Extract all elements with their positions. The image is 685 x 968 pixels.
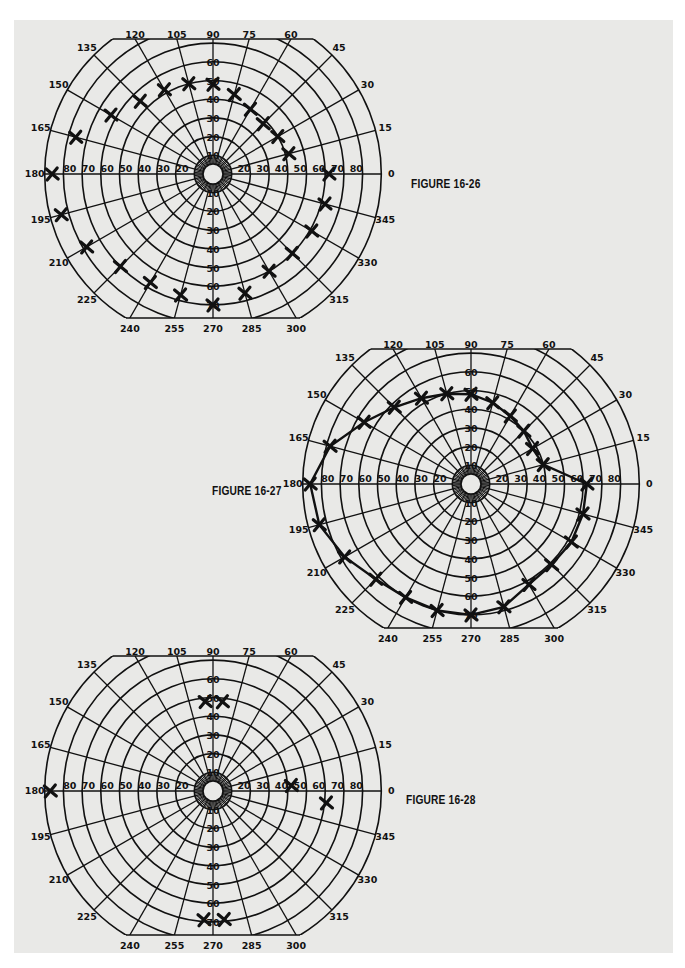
radial-label-down-50: 50 <box>206 880 220 891</box>
radial-label-down-20: 20 <box>206 206 220 217</box>
spoke-150 <box>325 400 462 479</box>
angle-label-120: 120 <box>125 29 145 40</box>
angle-label-90: 90 <box>206 29 220 40</box>
radial-label-left-40: 40 <box>138 780 152 791</box>
radial-label-right-30: 30 <box>256 163 270 174</box>
x-marker-icon <box>370 573 382 585</box>
angle-label-255: 255 <box>164 940 184 951</box>
angle-label-300: 300 <box>286 323 306 334</box>
spoke-240 <box>129 800 208 937</box>
spoke-135 <box>94 672 206 784</box>
radial-label-left-70: 70 <box>82 163 96 174</box>
angle-label-270: 270 <box>203 323 223 334</box>
angle-label-150: 150 <box>49 79 69 90</box>
radial-label-left-60: 60 <box>101 780 115 791</box>
radial-label-left-30: 30 <box>415 473 429 484</box>
x-marker-icon <box>518 425 530 437</box>
spoke-300 <box>218 183 297 320</box>
radial-label-up-30: 30 <box>464 423 478 434</box>
radial-label-left-20: 20 <box>433 473 447 484</box>
angle-label-270: 270 <box>461 633 481 644</box>
radial-label-left-60: 60 <box>101 163 115 174</box>
angle-label-300: 300 <box>544 633 564 644</box>
polar-grid-1: 0153045607590105120135150165180195210225… <box>25 6 395 343</box>
spoke-330 <box>480 489 617 568</box>
x-marker-icon <box>358 416 370 428</box>
angle-label-60: 60 <box>542 339 556 350</box>
radial-label-down-10: 10 <box>206 188 220 199</box>
radial-label-down-10: 10 <box>464 498 478 509</box>
radial-label-right-20: 20 <box>237 780 251 791</box>
angle-label-255: 255 <box>164 323 184 334</box>
radial-label-down-30: 30 <box>464 535 478 546</box>
angle-label-105: 105 <box>425 339 445 350</box>
spoke-210 <box>67 796 204 875</box>
angle-label-105: 105 <box>167 646 187 657</box>
radial-label-right-80: 80 <box>350 780 364 791</box>
x-marker-icon <box>537 459 549 471</box>
radial-label-down-40: 40 <box>206 861 220 872</box>
x-marker-icon <box>183 78 195 90</box>
radial-label-right-20: 20 <box>495 473 509 484</box>
angle-label-15: 15 <box>379 122 392 133</box>
spoke-225 <box>352 491 464 603</box>
radial-label-up-30: 30 <box>206 730 220 741</box>
angle-label-195: 195 <box>289 524 309 535</box>
angle-label-210: 210 <box>49 257 69 268</box>
x-marker-icon <box>218 914 230 926</box>
radial-label-left-70: 70 <box>340 473 354 484</box>
x-marker-icon <box>70 131 82 143</box>
spoke-330 <box>222 796 359 875</box>
radial-label-up-10: 10 <box>206 150 220 161</box>
angle-label-90: 90 <box>464 339 478 350</box>
x-marker-icon <box>114 261 126 273</box>
angle-label-330: 330 <box>615 567 635 578</box>
angle-label-45: 45 <box>332 42 345 53</box>
radial-label-left-50: 50 <box>119 163 133 174</box>
radial-label-down-30: 30 <box>206 225 220 236</box>
radial-label-down-10: 10 <box>206 805 220 816</box>
angle-label-150: 150 <box>307 389 327 400</box>
angle-label-225: 225 <box>77 294 97 305</box>
angle-label-60: 60 <box>284 646 298 657</box>
spoke-150 <box>67 90 204 169</box>
angle-label-225: 225 <box>77 911 97 922</box>
angle-label-315: 315 <box>329 911 349 922</box>
spoke-120 <box>129 28 208 165</box>
spoke-45 <box>478 365 590 477</box>
angle-label-0: 0 <box>646 478 653 489</box>
spoke-30 <box>222 90 359 169</box>
radial-label-up-10: 10 <box>206 767 220 778</box>
radial-label-right-30: 30 <box>514 473 528 484</box>
radial-label-right-60: 60 <box>312 780 326 791</box>
angle-label-90: 90 <box>206 646 220 657</box>
radial-label-left-30: 30 <box>157 163 171 174</box>
polar-grid-2: 0153045607590105120135150165180195210225… <box>283 316 653 653</box>
spoke-315 <box>220 798 332 910</box>
radial-label-left-50: 50 <box>119 780 133 791</box>
radial-label-right-40: 40 <box>533 473 547 484</box>
angle-label-15: 15 <box>637 432 650 443</box>
x-marker-icon <box>175 289 187 301</box>
radial-label-left-80: 80 <box>63 163 77 174</box>
x-marker-icon <box>239 287 251 299</box>
angle-label-330: 330 <box>357 874 377 885</box>
radial-label-left-20: 20 <box>175 163 189 174</box>
angle-label-45: 45 <box>590 352 603 363</box>
spoke-45 <box>220 672 332 784</box>
x-marker-icon <box>244 103 256 115</box>
radial-label-down-20: 20 <box>464 516 478 527</box>
x-marker-icon <box>546 559 558 571</box>
radial-label-down-40: 40 <box>206 244 220 255</box>
radial-label-up-20: 20 <box>206 132 220 143</box>
radial-label-right-50: 50 <box>294 163 308 174</box>
radial-label-right-70: 70 <box>331 780 345 791</box>
x-marker-icon <box>487 397 499 409</box>
x-marker-icon <box>263 265 275 277</box>
angle-label-165: 165 <box>31 739 51 750</box>
angle-label-135: 135 <box>77 659 97 670</box>
x-marker-icon <box>400 591 412 603</box>
center-circle <box>203 164 223 184</box>
angle-label-285: 285 <box>242 940 262 951</box>
radial-label-left-40: 40 <box>138 163 152 174</box>
